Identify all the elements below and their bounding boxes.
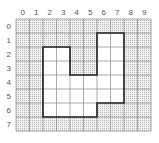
column-label: 1: [34, 8, 39, 17]
row-label: 0: [7, 22, 12, 31]
row-label: 6: [7, 106, 12, 115]
row-labels: 01234567: [7, 22, 12, 129]
row-label: 7: [7, 120, 12, 129]
row-label: 2: [7, 50, 12, 59]
column-label: 3: [61, 8, 66, 17]
row-label: 1: [7, 36, 12, 45]
grid-diagram: 0123456789 01234567: [0, 0, 159, 143]
column-label: 5: [88, 8, 93, 17]
column-label: 6: [102, 8, 107, 17]
column-label: 2: [48, 8, 53, 17]
column-labels: 0123456789: [21, 8, 148, 17]
column-label: 8: [129, 8, 134, 17]
column-label: 4: [75, 8, 80, 17]
column-label: 7: [115, 8, 120, 17]
column-label: 9: [142, 8, 147, 17]
column-label: 0: [21, 8, 26, 17]
row-label: 4: [7, 78, 12, 87]
row-label: 5: [7, 92, 12, 101]
row-label: 3: [7, 64, 12, 73]
